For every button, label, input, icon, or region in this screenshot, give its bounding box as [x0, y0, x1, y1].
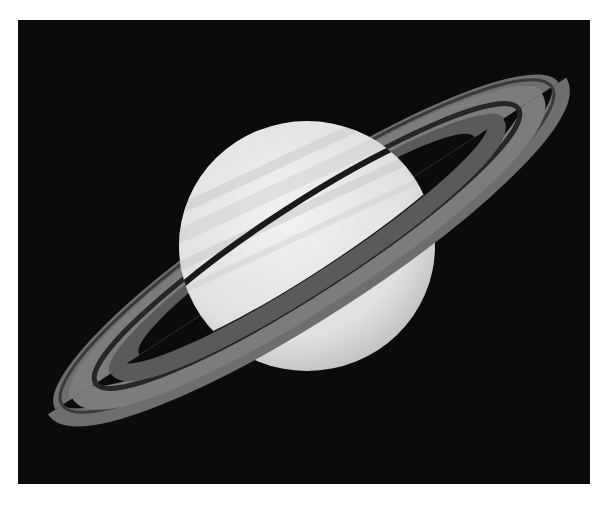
saturn-image [0, 0, 608, 505]
